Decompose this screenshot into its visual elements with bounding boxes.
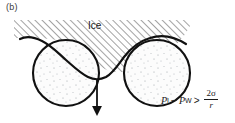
surface-tension-fraction: 2σ r — [204, 89, 217, 110]
panel-label: (b) — [6, 2, 18, 13]
pressure-water-subscript: W — [185, 95, 192, 107]
fraction-denominator: r — [207, 101, 215, 110]
minus-operator: − — [171, 95, 177, 107]
capillary-pressure-formula: PI − PW > 2σ r — [161, 90, 218, 111]
figure-panel-b: (b) Ice PI − PW > 2σ r — [0, 0, 235, 123]
fraction-numerator: 2σ — [204, 89, 217, 98]
pressure-ice-subscript: I — [167, 95, 169, 107]
greater-than-operator: > — [194, 95, 200, 107]
grain-left — [33, 40, 99, 106]
ice-label: Ice — [88, 20, 101, 32]
